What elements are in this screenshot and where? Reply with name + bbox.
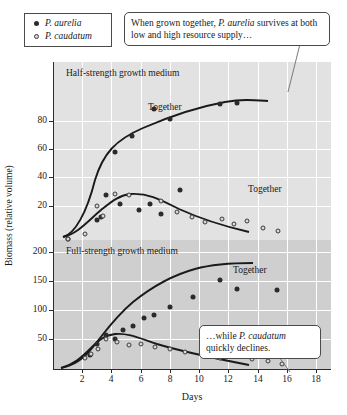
callout-caudatum-declines: …while P. caudatum quickly declines. — [199, 325, 321, 359]
figure: P. aurelia P. caudatum When grown togeth… — [0, 0, 347, 415]
callout-aurelia-survives: When grown together, P. aurelia survives… — [124, 12, 330, 46]
